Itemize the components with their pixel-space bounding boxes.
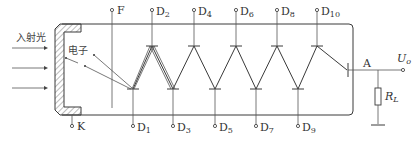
cathode-terminal [70,124,73,127]
anode-label: A [362,57,372,70]
dynode-label-d8: D8 [281,5,295,19]
output-terminal [401,68,404,71]
dynode-label-d5: D5 [219,121,233,135]
load-resistor [375,88,381,105]
dynode-label-d9: D9 [302,121,316,135]
dynode-label-d1: D1 [137,121,151,135]
electron-label: 电子 [68,44,88,56]
load-resistor-label: RL [384,90,399,104]
dynode-label-d2: D2 [156,5,170,19]
dynode-label-d6: D6 [240,5,254,19]
incident-light-arrows [12,46,48,90]
bottom-dynodes [127,89,304,128]
top-dynodes [146,8,323,46]
electron-multiplication-path [133,46,347,89]
output-label: Uo [397,52,411,66]
focus-electrode-label: F [117,4,125,17]
dynode-label-d10: D10 [321,5,340,19]
electron-paths [65,54,132,89]
cathode-label: K [77,120,86,133]
photomultiplier-diagram: 入射光 K 电子 F D2 D4 D6 D8 D10 [0,0,418,142]
incident-light-label: 入射光 [16,31,46,43]
photocathode [55,24,81,115]
tube-envelope [62,24,353,115]
dynode-label-d7: D7 [260,121,274,135]
dynode-label-d3: D3 [177,121,191,135]
dynode-label-d4: D4 [198,5,212,19]
